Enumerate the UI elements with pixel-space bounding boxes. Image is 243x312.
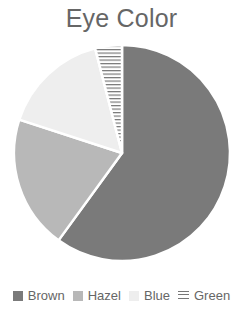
legend-label: Green	[194, 288, 230, 303]
legend-item-brown: Brown	[13, 288, 65, 303]
legend-item-hazel: Hazel	[73, 288, 121, 303]
legend-swatch-blue-icon	[129, 291, 139, 301]
legend-swatch-brown-icon	[13, 291, 23, 301]
pie-slices	[14, 45, 230, 261]
legend-label: Blue	[144, 288, 170, 303]
legend-swatch-green-hatch-icon	[178, 291, 189, 301]
legend-label: Hazel	[88, 288, 121, 303]
pie-chart	[0, 0, 243, 312]
legend-swatch-hazel-icon	[73, 291, 83, 301]
legend-item-green: Green	[178, 288, 230, 303]
legend-item-blue: Blue	[129, 288, 170, 303]
legend-label: Brown	[28, 288, 65, 303]
legend: Brown Hazel Blue Green	[0, 288, 243, 303]
